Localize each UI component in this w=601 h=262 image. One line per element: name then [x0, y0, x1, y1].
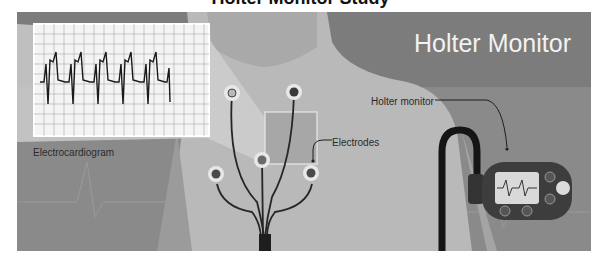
holter-monitor-label: Holter monitor [371, 96, 434, 107]
illustration-title: Holter Monitor [414, 29, 571, 58]
holter-plug [468, 174, 484, 204]
holter-device [482, 162, 572, 220]
ecg-chart [34, 24, 209, 136]
ecg-label: Electrocardiogram [33, 147, 114, 158]
holter-illustration: Holter Monitor Electrocardiogram Electro… [17, 12, 591, 251]
electrodes-label: Electrodes [332, 137, 379, 148]
cut-off-page-title: Holter Monitor Study [0, 0, 601, 9]
